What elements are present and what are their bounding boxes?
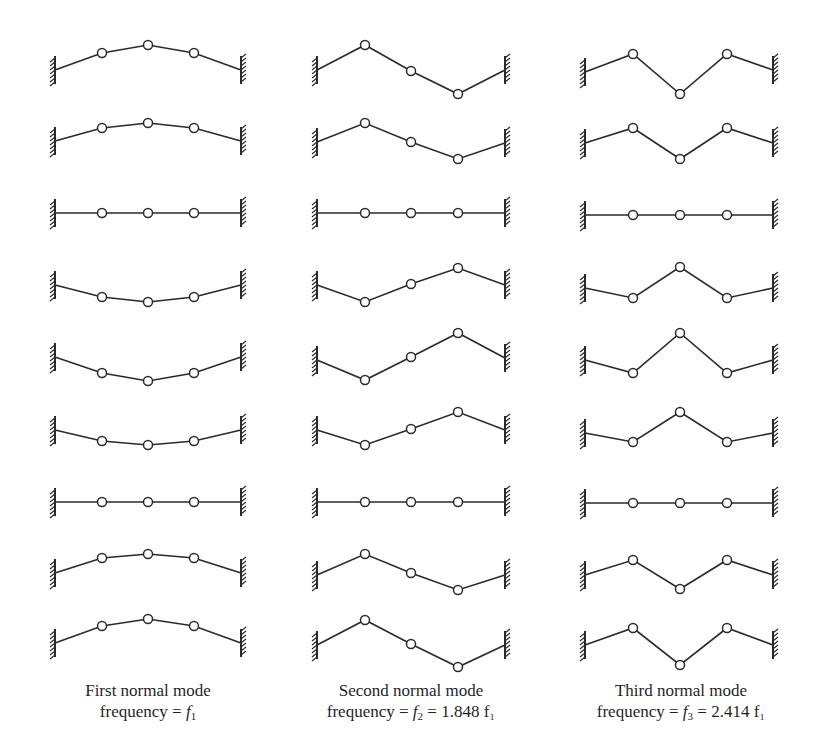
- mass-circle-icon: [361, 441, 370, 450]
- mass-circle-icon: [190, 293, 199, 302]
- mass-circle-icon: [407, 425, 416, 434]
- left-wall-icon: [312, 416, 317, 446]
- snapshot-row: [580, 329, 778, 378]
- snapshot-row: [312, 550, 510, 595]
- caption-first-mode: First normal mode frequency = f1: [48, 680, 248, 727]
- snapshot-row: [50, 486, 246, 518]
- snapshot-row: [580, 408, 778, 450]
- mass-circle-icon: [454, 209, 463, 218]
- snapshot-row: [580, 199, 778, 231]
- snapshot-row: [50, 41, 246, 87]
- mass-circle-icon: [407, 569, 416, 578]
- right-wall-icon: [773, 344, 778, 374]
- mass-circle-icon: [190, 124, 199, 133]
- left-wall-icon: [580, 489, 585, 519]
- mass-circle-icon: [407, 353, 416, 362]
- mass-circle-icon: [629, 624, 638, 633]
- mass-circle-icon: [629, 124, 638, 133]
- mass-circle-icon: [98, 622, 107, 631]
- caption-frequency: frequency = f2 = 1.848 f₁: [281, 701, 541, 727]
- spring-line: [585, 54, 773, 94]
- right-wall-icon: [773, 487, 778, 517]
- left-wall-icon: [580, 561, 585, 591]
- mass-circle-icon: [407, 498, 416, 507]
- left-wall-icon: [312, 128, 317, 158]
- mass-circle-icon: [676, 408, 685, 417]
- mass-circle-icon: [454, 90, 463, 99]
- snapshot-row: [580, 487, 778, 519]
- left-wall-icon: [312, 271, 317, 301]
- caption-frequency: frequency = f1: [48, 701, 248, 727]
- mass-circle-icon: [454, 408, 463, 417]
- caption-title: Second normal mode: [281, 680, 541, 701]
- mass-circle-icon: [454, 498, 463, 507]
- mass-circle-icon: [144, 209, 153, 218]
- mass-circle-icon: [190, 209, 199, 218]
- mass-circle-icon: [361, 41, 370, 50]
- left-wall-icon: [312, 346, 317, 376]
- left-wall-icon: [312, 631, 317, 661]
- caption-title: First normal mode: [48, 680, 248, 701]
- mass-circle-icon: [723, 294, 732, 303]
- mass-circle-icon: [676, 499, 685, 508]
- mass-circle-icon: [144, 550, 153, 559]
- mass-circle-icon: [407, 280, 416, 289]
- mass-circle-icon: [361, 498, 370, 507]
- snapshot-row: [312, 119, 510, 164]
- spring-line: [585, 628, 773, 665]
- mass-circle-icon: [723, 624, 732, 633]
- right-wall-icon: [241, 197, 246, 227]
- snapshot-row: [50, 414, 246, 450]
- normal-modes-diagram: [0, 0, 822, 752]
- right-wall-icon: [241, 54, 246, 84]
- right-wall-icon: [773, 272, 778, 302]
- left-wall-icon: [312, 199, 317, 229]
- left-wall-icon: [50, 629, 55, 659]
- right-wall-icon: [505, 486, 510, 516]
- left-wall-icon: [580, 631, 585, 661]
- mass-circle-icon: [190, 622, 199, 631]
- caption-title: Third normal mode: [550, 680, 812, 701]
- snapshot-row: [312, 264, 510, 307]
- mass-circle-icon: [454, 155, 463, 164]
- mass-circle-icon: [98, 554, 107, 563]
- column-third-mode: [580, 50, 778, 670]
- snapshot-row: [312, 408, 510, 450]
- mass-circle-icon: [361, 616, 370, 625]
- mass-circle-icon: [723, 499, 732, 508]
- column-first-mode: [50, 41, 246, 660]
- left-wall-icon: [580, 274, 585, 304]
- left-wall-icon: [312, 561, 317, 591]
- right-wall-icon: [773, 559, 778, 589]
- left-wall-icon: [50, 559, 55, 589]
- mass-circle-icon: [629, 499, 638, 508]
- mass-circle-icon: [676, 211, 685, 220]
- mass-circle-icon: [144, 498, 153, 507]
- right-wall-icon: [241, 414, 246, 444]
- mass-circle-icon: [407, 209, 416, 218]
- right-wall-icon: [241, 341, 246, 371]
- mass-circle-icon: [361, 119, 370, 128]
- right-wall-icon: [241, 269, 246, 299]
- mass-circle-icon: [361, 376, 370, 385]
- mass-circle-icon: [676, 155, 685, 164]
- left-wall-icon: [50, 343, 55, 373]
- mass-circle-icon: [98, 369, 107, 378]
- snapshot-row: [50, 341, 246, 386]
- mass-circle-icon: [98, 49, 107, 58]
- left-wall-icon: [580, 346, 585, 376]
- mass-circle-icon: [190, 437, 199, 446]
- mass-circle-icon: [676, 661, 685, 670]
- mass-circle-icon: [629, 294, 638, 303]
- mass-circle-icon: [190, 498, 199, 507]
- snapshot-row: [50, 550, 246, 590]
- left-wall-icon: [580, 58, 585, 88]
- mass-circle-icon: [190, 369, 199, 378]
- mass-circle-icon: [98, 437, 107, 446]
- snapshot-row: [580, 556, 778, 594]
- mass-circle-icon: [723, 556, 732, 565]
- mass-circle-icon: [144, 377, 153, 386]
- snapshot-row: [50, 119, 246, 158]
- mass-circle-icon: [361, 298, 370, 307]
- snapshot-row: [50, 197, 246, 229]
